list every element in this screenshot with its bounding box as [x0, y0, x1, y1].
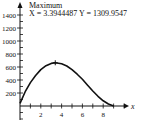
- x-tick-label: 8: [101, 111, 105, 119]
- chart-canvas: x2004006008001000120014002468: [0, 0, 145, 123]
- y-axis-arrow-icon: [18, 2, 23, 8]
- y-tick-label: 600: [6, 64, 17, 72]
- x-tick-label: 6: [81, 111, 85, 119]
- y-tick-label: 400: [6, 77, 17, 85]
- y-tick-label: 1000: [2, 38, 17, 46]
- x-tick-label: 4: [60, 111, 64, 119]
- y-tick-label: 200: [6, 90, 17, 98]
- x-axis-arrow-icon: [124, 104, 129, 109]
- annotation-coords: X = 3.3944487 Y = 1309.9547: [29, 10, 127, 18]
- x-axis-label: x: [130, 102, 135, 111]
- y-tick-label: 1400: [2, 12, 17, 20]
- x-tick-label: 2: [39, 111, 43, 119]
- y-tick-label: 1200: [2, 25, 17, 33]
- y-tick-label: 800: [6, 51, 17, 59]
- curve-line: [20, 63, 114, 106]
